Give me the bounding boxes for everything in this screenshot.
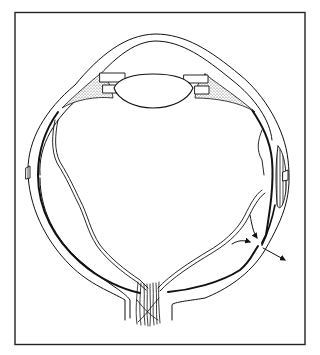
optic-nerve xyxy=(136,282,160,326)
vortex-vein-knob xyxy=(283,170,288,181)
lens xyxy=(114,74,193,108)
retina-left-2 xyxy=(53,120,146,290)
arrow-out xyxy=(263,248,285,260)
retina-right-upper xyxy=(258,130,264,175)
sclera-nodule-left xyxy=(26,166,30,179)
eye-diagram xyxy=(0,0,320,355)
retina-left xyxy=(56,120,148,288)
arrow-in xyxy=(232,241,250,244)
arrow-down xyxy=(250,215,257,238)
choroid-left xyxy=(38,112,140,293)
frame-border xyxy=(15,13,305,345)
iris-right-lower xyxy=(195,86,209,94)
eye-diagram-svg xyxy=(0,0,320,355)
sclera-mid-left xyxy=(40,178,130,318)
